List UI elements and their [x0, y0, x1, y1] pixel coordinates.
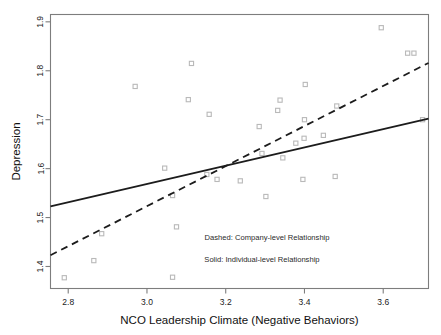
data-point-marker — [207, 112, 211, 116]
data-point-marker — [281, 156, 285, 160]
data-point-marker — [238, 179, 242, 183]
annotations-group: Dashed: Company-level RelationshipSolid:… — [204, 233, 329, 264]
data-point-marker — [62, 276, 66, 280]
data-point-marker — [189, 61, 193, 65]
plot-frame — [51, 15, 429, 289]
data-point-marker — [215, 177, 219, 181]
data-point-marker — [170, 275, 174, 279]
individual-level-fit-line — [51, 119, 429, 207]
solid-legend: Solid: Individual-level Relationship — [204, 255, 319, 264]
fit-lines-group — [51, 63, 429, 255]
data-point-marker — [294, 141, 298, 145]
x-tick-label: 3.6 — [377, 297, 389, 307]
plot-canvas: 2.83.03.23.43.61.41.51.61.71.81.9 Dashed… — [0, 0, 441, 335]
data-point-marker — [302, 136, 306, 140]
y-tick-label: 1.4 — [36, 260, 46, 272]
data-point-marker — [163, 166, 167, 170]
data-point-marker — [92, 259, 96, 263]
data-point-marker — [335, 104, 339, 108]
data-point-marker — [257, 124, 261, 128]
company-level-fit-line — [51, 63, 429, 255]
data-point-marker — [406, 51, 410, 55]
x-tick-label: 3.2 — [220, 297, 232, 307]
data-point-marker — [133, 84, 137, 88]
x-tick-label: 3.4 — [299, 297, 311, 307]
data-point-marker — [174, 225, 178, 229]
y-axis-title: Depression — [10, 122, 22, 180]
data-point-marker — [260, 151, 264, 155]
y-tick-label: 1.9 — [36, 16, 46, 28]
x-tick-label: 2.8 — [62, 297, 74, 307]
y-tick-label: 1.7 — [36, 114, 46, 126]
data-point-marker — [301, 177, 305, 181]
axis-ticks-group — [46, 22, 384, 294]
x-tick-label: 3.0 — [141, 297, 153, 307]
plot-frame-group — [51, 15, 429, 289]
y-tick-label: 1.6 — [36, 162, 46, 174]
data-point-marker — [186, 98, 190, 102]
data-point-marker — [100, 232, 104, 236]
data-point-marker — [412, 51, 416, 55]
data-point-marker — [379, 26, 383, 30]
data-point-marker — [276, 108, 280, 112]
data-point-marker — [302, 118, 306, 122]
data-points-group — [62, 26, 425, 280]
scatter-plot-figure: 2.83.03.23.43.61.41.51.61.71.81.9 Dashed… — [0, 0, 441, 335]
data-point-marker — [264, 194, 268, 198]
data-point-marker — [333, 174, 337, 178]
data-point-marker — [321, 133, 325, 137]
y-tick-label: 1.8 — [36, 65, 46, 77]
data-point-marker — [278, 98, 282, 102]
dashed-legend: Dashed: Company-level Relationship — [205, 233, 330, 242]
y-tick-label: 1.5 — [36, 211, 46, 223]
data-point-marker — [303, 82, 307, 86]
x-axis-title: NCO Leadership Climate (Negative Behavio… — [120, 314, 359, 326]
